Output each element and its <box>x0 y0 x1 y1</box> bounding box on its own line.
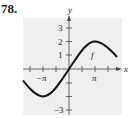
function-graph: y x 3 2 1 −3 −π π f <box>0 0 130 118</box>
y-axis-label: y <box>67 5 72 15</box>
y-tick-label-1: 1 <box>58 50 63 60</box>
plot-background <box>23 18 122 115</box>
x-axis-label: x <box>123 64 128 74</box>
y-tick-label-neg3: −3 <box>54 105 64 115</box>
x-tick-label-pi: π <box>92 73 97 83</box>
y-tick-label-2: 2 <box>58 37 63 47</box>
y-tick-label-3: 3 <box>58 23 63 33</box>
x-tick-label-neg-pi: −π <box>36 73 47 83</box>
